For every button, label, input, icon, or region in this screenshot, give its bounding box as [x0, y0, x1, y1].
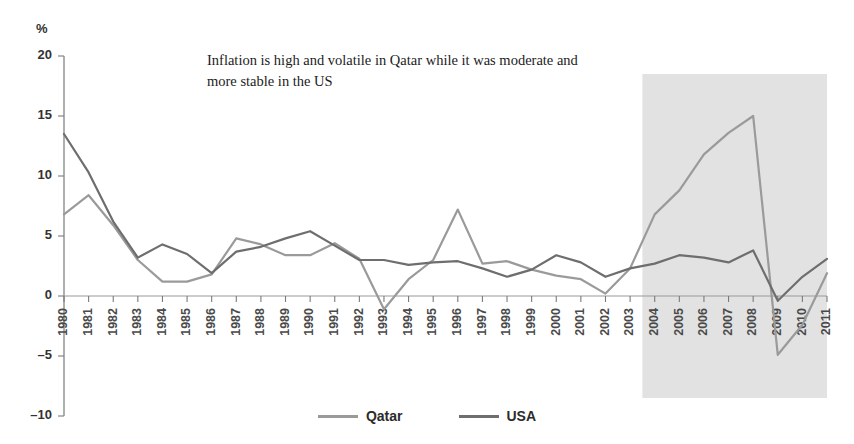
x-tick-label-1992: 1992	[352, 308, 366, 336]
x-tick-label-1989: 1989	[278, 308, 292, 336]
x-tick-label-2009: 2009	[770, 308, 784, 336]
x-tick-label-2007: 2007	[721, 308, 735, 336]
x-tick-label-2003: 2003	[622, 308, 636, 336]
legend-swatch-usa	[459, 415, 499, 418]
y-axis-labels: 20151050–5–10	[30, 47, 52, 422]
x-tick-label-2002: 2002	[598, 308, 612, 336]
chart-legend: Qatar USA	[0, 408, 854, 424]
y-tick-label--5: –5	[38, 347, 52, 362]
x-tick-label-2006: 2006	[696, 308, 710, 336]
x-tick-label-1998: 1998	[499, 308, 513, 336]
x-tick-label-1990: 1990	[302, 308, 316, 336]
x-tick-label-1982: 1982	[106, 308, 120, 336]
x-tick-label-2005: 2005	[672, 308, 686, 336]
y-axis-unit-label: %	[36, 21, 48, 36]
x-tick-label-1993: 1993	[376, 308, 390, 336]
x-tick-label-1997: 1997	[475, 308, 489, 336]
y-tick-label-5: 5	[45, 227, 52, 242]
y-tick-label-20: 20	[38, 47, 52, 62]
legend-label-qatar: Qatar	[366, 408, 403, 424]
x-tick-label-1996: 1996	[450, 308, 464, 336]
x-tick-label-1991: 1991	[327, 308, 341, 336]
x-tick-label-1983: 1983	[130, 308, 144, 336]
x-tick-label-1986: 1986	[204, 308, 218, 336]
inflation-line-chart: 20151050–5–10 19801981198219831984198519…	[0, 0, 854, 444]
x-tick-label-1987: 1987	[229, 308, 243, 336]
legend-swatch-qatar	[318, 415, 358, 418]
annotation-line-2: more stable in the US	[207, 71, 627, 92]
x-tick-label-1981: 1981	[81, 308, 95, 336]
x-tick-label-1999: 1999	[524, 308, 538, 336]
y-tick-label-15: 15	[38, 107, 52, 122]
annotation-line-1: Inflation is high and volatile in Qatar …	[207, 50, 627, 71]
y-tick-label-10: 10	[38, 167, 52, 182]
x-tick-label-2008: 2008	[745, 308, 759, 336]
x-tick-label-1985: 1985	[179, 308, 193, 336]
x-tick-label-1988: 1988	[253, 308, 267, 336]
x-tick-label-1984: 1984	[155, 308, 169, 336]
legend-item-qatar: Qatar	[318, 408, 403, 424]
chart-annotation: Inflation is high and volatile in Qatar …	[207, 50, 627, 92]
x-tick-label-2000: 2000	[549, 308, 563, 336]
x-tick-label-1995: 1995	[425, 308, 439, 336]
x-tick-label-1980: 1980	[56, 308, 70, 336]
forecast-highlight-band	[642, 74, 827, 398]
x-tick-label-2004: 2004	[647, 308, 661, 336]
highlight-band-layer	[642, 74, 827, 398]
x-tick-label-2001: 2001	[573, 308, 587, 336]
y-tick-label-0: 0	[45, 287, 52, 302]
x-tick-label-1994: 1994	[401, 308, 415, 336]
legend-item-usa: USA	[459, 408, 537, 424]
x-tick-label-2011: 2011	[819, 308, 833, 335]
legend-label-usa: USA	[507, 408, 537, 424]
